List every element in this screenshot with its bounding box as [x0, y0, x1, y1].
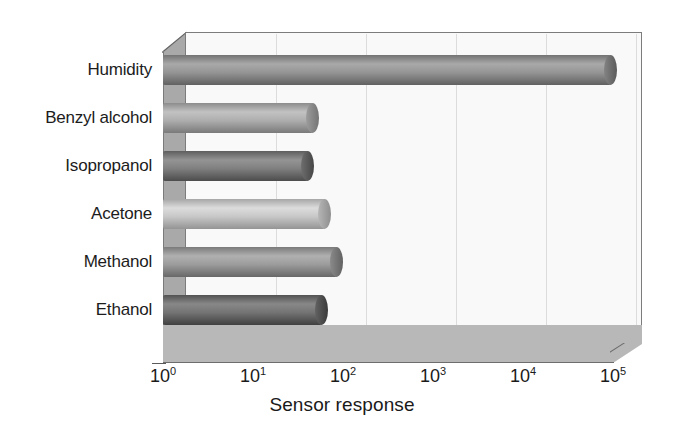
x-tick-exponent: 4: [530, 365, 536, 377]
category-label-ethanol: Ethanol: [96, 295, 152, 325]
x-tick-label-1e5: 105: [600, 366, 626, 387]
category-label-acetone: Acetone: [91, 199, 152, 229]
x-tick-exponent: 5: [620, 365, 626, 377]
bar-humidity: [163, 55, 611, 85]
x-axis-tick-labels: 100101102103104105: [0, 366, 684, 396]
bar-methanol: [163, 247, 337, 277]
sensor-response-bar-chart: HumidityBenzyl alcoholIsopropanolAcetone…: [0, 0, 684, 434]
bar-body: [163, 295, 322, 325]
bar-body: [163, 151, 308, 181]
bar-end-cap: [306, 103, 319, 133]
x-tick-mantissa: 10: [330, 366, 350, 386]
plot-floor-front-edge: [163, 362, 614, 363]
bar-end-cap: [318, 199, 331, 229]
bar-end-cap: [604, 55, 617, 85]
bar-benzyl-alcohol: [163, 103, 313, 133]
bar-body: [163, 247, 337, 277]
x-tick-exponent: 1: [260, 365, 266, 377]
x-tick-exponent: 0: [170, 365, 176, 377]
x-tick-label-1e1: 101: [240, 366, 266, 387]
x-axis-title: Sensor response: [0, 394, 684, 416]
x-tick-mantissa: 10: [600, 366, 620, 386]
bar-body: [163, 103, 313, 133]
category-label-benzyl-alcohol: Benzyl alcohol: [45, 103, 152, 133]
x-tick-label-1e2: 102: [330, 366, 356, 387]
bars-layer: [163, 32, 642, 363]
x-tick-mantissa: 10: [420, 366, 440, 386]
x-tick-label-1e4: 104: [510, 366, 536, 387]
bar-end-cap: [301, 151, 314, 181]
plot-area: [163, 32, 642, 363]
x-tick-exponent: 3: [440, 365, 446, 377]
bar-acetone: [163, 199, 325, 229]
bar-body: [163, 55, 611, 85]
bar-end-cap: [330, 247, 343, 277]
bar-isopropanol: [163, 151, 308, 181]
x-axis-line: [152, 363, 166, 364]
x-tick-mantissa: 10: [150, 366, 170, 386]
bar-end-cap: [315, 295, 328, 325]
x-tick-mantissa: 10: [240, 366, 260, 386]
category-label-isopropanol: Isopropanol: [65, 151, 152, 181]
x-tick-label-1e3: 103: [420, 366, 446, 387]
bar-ethanol: [163, 295, 322, 325]
category-label-methanol: Methanol: [84, 247, 152, 277]
plot-floor-right-edge: [610, 343, 646, 365]
category-axis-labels: HumidityBenzyl alcoholIsopropanolAcetone…: [0, 32, 158, 363]
category-label-humidity: Humidity: [87, 55, 152, 85]
x-tick-label-1e0: 100: [150, 366, 176, 387]
bar-body: [163, 199, 325, 229]
x-tick-mantissa: 10: [510, 366, 530, 386]
plot-floor: [163, 325, 642, 363]
x-tick-exponent: 2: [350, 365, 356, 377]
